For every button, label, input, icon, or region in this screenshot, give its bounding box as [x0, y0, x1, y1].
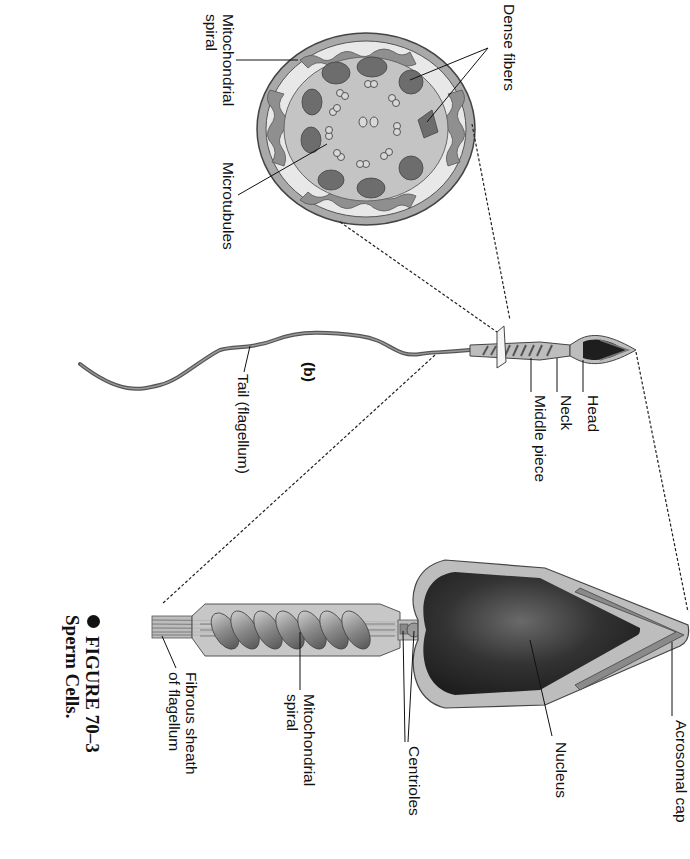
label-dense-fibers: Dense fibers [501, 4, 518, 91]
bullet-icon [87, 615, 100, 628]
figure-caption: FIGURE 70–3 Sperm Cells. [62, 615, 102, 753]
part-label-b: (b) [301, 362, 318, 382]
caption-line-1: FIGURE 70–3 [82, 615, 102, 753]
label-cross-mitochondrial-spiral: Mitochondrial spiral [203, 14, 237, 106]
label-nucleus: Nucleus [553, 742, 570, 798]
label-middle-piece: Middle piece [532, 395, 549, 482]
figure-number: FIGURE 70–3 [82, 636, 103, 753]
label-neck: Neck [558, 395, 575, 430]
label-tail: Tail (flagellum) [235, 374, 252, 474]
small-sperm [80, 326, 636, 392]
caption-line-2: Sperm Cells. [62, 615, 82, 753]
large-sperm [152, 560, 689, 742]
label-microtubules: Microtubules [220, 162, 237, 250]
label-acrosomal-cap: Acrosomal cap [673, 720, 690, 823]
label-head: Head [585, 395, 602, 432]
label-fibrous-sheath: Fibrous sheath of flagellum [166, 672, 200, 775]
label-large-mitochondrial-spiral: Mitochondrial spiral [284, 694, 318, 786]
small-tail [80, 333, 470, 389]
label-centrioles: Centrioles [406, 746, 423, 816]
cross-section [236, 33, 488, 225]
